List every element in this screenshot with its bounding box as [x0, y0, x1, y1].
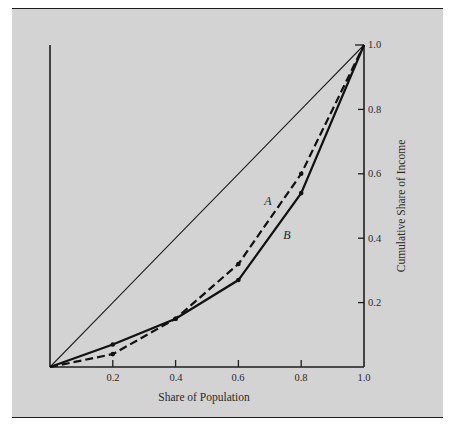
curve-a-label: A — [263, 194, 272, 208]
x-tick-label: 1.0 — [357, 372, 370, 383]
x-tick-label: 0.8 — [294, 372, 307, 383]
data-point-marker — [236, 278, 241, 283]
curve-b-label: B — [283, 228, 291, 242]
data-point-marker — [111, 342, 116, 347]
y-tick-label: 0.6 — [368, 168, 381, 179]
x-tick-label: 0.6 — [231, 372, 244, 383]
data-point-markers — [111, 172, 304, 357]
y-tick-label: 1.0 — [368, 39, 381, 50]
x-tick-label: 0.2 — [106, 372, 119, 383]
y-axis-title: Cumulative Share of Income — [395, 140, 407, 273]
data-point-marker — [236, 262, 241, 267]
x-axis-title: Share of Population — [158, 391, 250, 404]
y-tick-label: 0.4 — [368, 233, 382, 244]
data-point-marker — [173, 316, 178, 321]
y-tick-label: 0.8 — [368, 104, 381, 115]
x-tick-label: 0.4 — [169, 372, 183, 383]
equality-line — [50, 45, 364, 367]
data-point-marker — [299, 172, 304, 177]
data-point-marker — [299, 191, 304, 196]
y-tick-label: 0.2 — [368, 297, 381, 308]
lorenz-chart: 0.2 0.4 0.6 0.8 1.0 0.2 0.4 0.6 0.8 1.0 … — [0, 0, 453, 426]
x-axis-ticks — [113, 360, 301, 367]
data-point-marker — [111, 352, 116, 357]
y-axis-ticks — [355, 45, 364, 303]
